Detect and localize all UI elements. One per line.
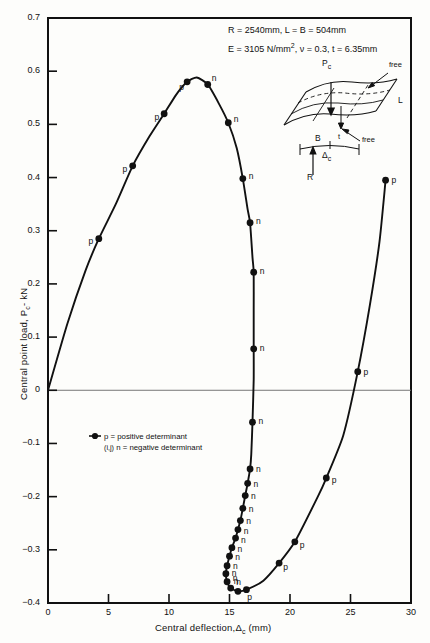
y-tick-label: 0.5 — [14, 118, 40, 128]
y-tick-label: −0.3 — [14, 544, 40, 554]
x-tick-label: 30 — [401, 607, 421, 617]
y-axis-title-subscript: c — [24, 306, 31, 310]
x-axis-title-text: Central deflection, — [155, 622, 235, 633]
legend-negative-text: n = negative determinant — [116, 443, 202, 452]
figure-panel: −0.4−0.3−0.2−0.100.10.20.30.40.50.60.7 0… — [0, 0, 430, 643]
determinant-label-p: p — [283, 562, 288, 572]
legend: p = positive determinant (i,j) n = negat… — [104, 431, 202, 453]
x-axis-title-units: (mm) — [248, 622, 271, 633]
determinant-label-n: n — [234, 114, 239, 124]
inset-breadth-label: B — [315, 133, 321, 143]
inset-deflection-subscript: c — [328, 155, 332, 162]
plot-frame — [48, 18, 411, 603]
parameter-annotation: R = 2540mm, L = B = 504mm E = 3105 N/mm2… — [228, 22, 377, 57]
legend-node-index-label: (i,j) — [104, 443, 114, 452]
x-tick-label: 5 — [99, 607, 119, 617]
equilibrium-path-curve — [48, 78, 386, 592]
y-tick-label: 0.3 — [14, 225, 40, 235]
inset-thickness-label: t — [338, 132, 340, 141]
determinant-label-n: n — [260, 266, 265, 276]
determinant-label-n: n — [241, 535, 246, 545]
determinant-label-n: n — [212, 73, 217, 83]
determinant-label-p: p — [89, 236, 94, 246]
y-tick-label: 0.6 — [14, 65, 40, 75]
x-tick-label: 0 — [38, 607, 58, 617]
y-axis-title-units: - kN — [18, 288, 29, 306]
determinant-label-n: n — [236, 577, 241, 587]
y-tick-label: 0.2 — [14, 278, 40, 288]
determinant-label-n: n — [249, 504, 254, 514]
x-tick-label: 20 — [280, 607, 300, 617]
inset-free-bottom-label: free — [362, 135, 375, 144]
determinant-label-p: p — [247, 592, 252, 602]
inset-deflection-label: Δc — [322, 150, 331, 162]
inset-load-subscript: c — [328, 63, 332, 70]
determinant-label-p: p — [300, 540, 305, 550]
axis-ticks — [48, 18, 411, 603]
y-tick-label: −0.1 — [14, 437, 40, 447]
parameter-line-material: E = 3105 N/mm2, ν = 0.3, t = 6.35mm — [228, 38, 377, 57]
inset-load-label: Pc — [322, 58, 331, 70]
determinant-label-p: p — [179, 82, 184, 92]
determinant-label-n: n — [254, 479, 259, 489]
x-tick-label: 25 — [341, 607, 361, 617]
determinant-label-n: n — [251, 491, 256, 501]
y-tick-label: −0.2 — [14, 491, 40, 501]
inset-length-label: L — [398, 95, 403, 105]
y-axis-title-text: Central point load, P — [18, 310, 29, 400]
legend-row-positive: p = positive determinant — [104, 431, 202, 442]
x-axis-title: Central deflection,Δc (mm) — [155, 622, 271, 635]
y-tick-label: 0.4 — [14, 172, 40, 182]
y-axis-title: Central point load, Pc- kN — [18, 288, 31, 400]
determinant-label-p: p — [155, 112, 160, 122]
determinant-label-n: n — [260, 343, 265, 353]
determinant-label-n: n — [256, 216, 261, 226]
y-tick-label: −0.4 — [14, 597, 40, 607]
determinant-label-p: p — [332, 475, 337, 485]
parameter-line-geometry: R = 2540mm, L = B = 504mm — [228, 22, 377, 38]
y-tick-label: 0.7 — [14, 12, 40, 22]
load-deflection-chart — [0, 0, 430, 643]
x-tick-label: 15 — [220, 607, 240, 617]
inset-radius-label: R — [307, 172, 313, 182]
determinant-label-n: n — [258, 416, 263, 426]
legend-row-negative: (i,j) n = negative determinant — [104, 442, 202, 453]
legend-positive-text: p = positive determinant — [104, 432, 187, 441]
x-axis-title-subscript: c — [242, 628, 246, 635]
determinant-label-p: p — [392, 175, 397, 185]
data-point-markers — [95, 78, 389, 594]
determinant-label-p: p — [364, 367, 369, 377]
inset-free-top-label: free — [389, 60, 402, 69]
parameter-poisson-thickness: , ν = 0.3, t = 6.35mm — [295, 44, 378, 54]
determinant-label-n: n — [249, 171, 254, 181]
parameter-modulus: E = 3105 N/mm — [228, 44, 291, 54]
x-tick-label: 10 — [159, 607, 179, 617]
determinant-label-p: p — [123, 164, 128, 174]
determinant-label-n: n — [256, 464, 261, 474]
